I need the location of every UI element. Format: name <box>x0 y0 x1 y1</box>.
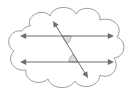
cloud-callout-outline <box>9 7 124 87</box>
figure-container: Parallel lines cut by a transversal insi… <box>0 0 131 96</box>
geometry-figure: Parallel lines cut by a transversal insi… <box>0 0 131 96</box>
